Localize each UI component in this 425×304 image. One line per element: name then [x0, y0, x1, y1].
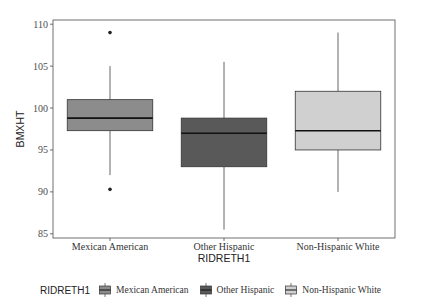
y-tick-label: 85 [38, 228, 48, 239]
legend-title: RIDRETH1 [40, 285, 90, 296]
legend: RIDRETH1 Mexican American Other Hispanic… [0, 280, 425, 300]
y-tick-label: 95 [38, 144, 48, 155]
legend-item-mexican-american: Mexican American [98, 283, 189, 297]
iqr-box [67, 100, 153, 131]
y-tick-label: 90 [38, 186, 48, 197]
legend-label: Other Hispanic [217, 285, 275, 295]
x-axis-title: RIDRETH1 [198, 252, 251, 264]
x-tick-label: Other Hispanic [194, 241, 255, 252]
legend-item-non-hispanic-white: Non-Hispanic White [284, 283, 381, 297]
legend-key-icon [98, 283, 112, 297]
legend-item-other-hispanic: Other Hispanic [199, 283, 275, 297]
y-tick-label: 100 [33, 103, 48, 114]
legend-key-icon [199, 283, 213, 297]
outlier-point [108, 31, 112, 35]
iqr-box [181, 118, 267, 167]
iqr-box [295, 91, 381, 150]
x-tick-label: Non-Hispanic White [297, 241, 380, 252]
boxplot-chart: 859095100105110 Mexican AmericanOther Hi… [0, 0, 425, 280]
legend-label: Mexican American [116, 285, 189, 295]
x-axis: Mexican AmericanOther HispanicNon-Hispan… [72, 238, 380, 252]
y-axis: 859095100105110 [33, 19, 53, 240]
y-tick-label: 105 [33, 61, 48, 72]
legend-key-icon [284, 283, 298, 297]
y-axis-title: BMXHT [14, 110, 26, 147]
x-tick-label: Mexican American [72, 241, 148, 252]
y-tick-label: 110 [33, 19, 48, 30]
outlier-point [108, 188, 112, 192]
legend-label: Non-Hispanic White [302, 285, 381, 295]
